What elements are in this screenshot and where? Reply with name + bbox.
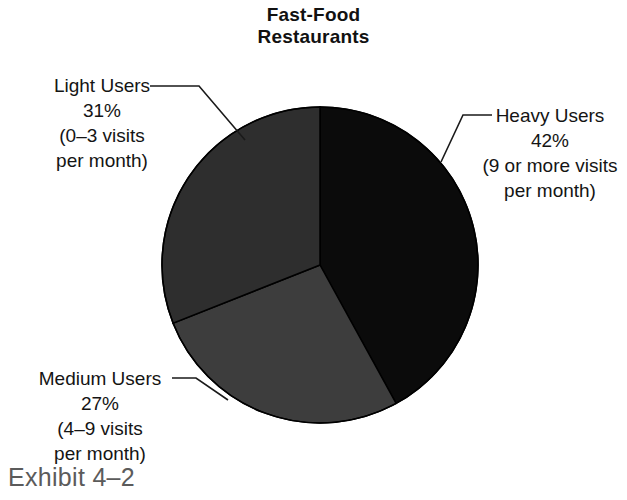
callout-light-users-percent: 31%	[22, 98, 182, 123]
callout-heavy-users-detail-1: (9 or more visits	[477, 153, 623, 178]
exhibit-figure: Fast-Food Restaurants Light Users 31% (0…	[0, 0, 627, 500]
callout-medium-users: Medium Users 27% (4–9 visits per month)	[18, 366, 182, 466]
callout-light-users: Light Users 31% (0–3 visits per month)	[22, 73, 182, 173]
callout-heavy-users-percent: 42%	[477, 128, 623, 153]
callout-light-users-detail-1: (0–3 visits	[22, 123, 182, 148]
callout-heavy-users-detail-2: per month)	[477, 178, 623, 203]
callout-light-users-detail-2: per month)	[22, 148, 182, 173]
callout-heavy-users: Heavy Users 42% (9 or more visits per mo…	[477, 103, 623, 203]
callout-medium-users-name: Medium Users	[18, 366, 182, 391]
exhibit-caption: Exhibit 4–2	[8, 462, 135, 492]
callout-light-users-name: Light Users	[22, 73, 182, 98]
callout-medium-users-detail-1: (4–9 visits	[18, 416, 182, 441]
callout-heavy-users-name: Heavy Users	[477, 103, 623, 128]
callout-medium-users-percent: 27%	[18, 391, 182, 416]
